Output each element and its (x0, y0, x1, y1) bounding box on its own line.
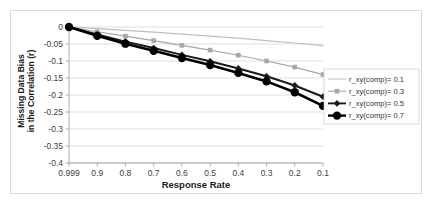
y-tick-label: -0.2 (48, 90, 63, 100)
data-point-marker-s1 (151, 38, 156, 43)
data-point-marker-s1 (335, 89, 340, 94)
data-series-group (65, 23, 327, 110)
x-tick-label: 0.8 (120, 168, 132, 178)
data-point-marker-s3 (121, 39, 129, 47)
x-tick-label: 0.6 (176, 168, 188, 178)
legend-label: r_xy(comp)= 0.5 (349, 99, 404, 108)
x-tick-label: 0.5 (204, 168, 216, 178)
data-point-marker-s3 (291, 88, 299, 96)
x-tick-label: 0.7 (148, 168, 160, 178)
y-tick-label: -0.05 (44, 39, 64, 49)
data-point-marker-s1 (264, 59, 269, 64)
data-point-marker-s3 (262, 77, 270, 85)
data-point-marker-s1 (123, 34, 128, 39)
data-point-marker-s3 (234, 69, 242, 77)
y-axis-title-line2: in the Correlation (r) (26, 50, 36, 133)
data-point-marker-s1 (236, 53, 241, 58)
chart-container: 0-0.05-0.1-0.15-0.2-0.25-0.3-0.35-0.4 0.… (10, 10, 422, 194)
y-tick-label: 0 (58, 22, 63, 32)
x-tick-label: 0.3 (261, 168, 273, 178)
chart-legend: r_xy(comp)= 0.1r_xy(comp)= 0.3r_xy(comp)… (324, 69, 419, 124)
legend-label: r_xy(comp)= 0.3 (349, 87, 404, 96)
series-polyline (69, 27, 323, 106)
data-point-marker-s2 (291, 82, 298, 89)
x-tick-label: 0.999 (58, 168, 80, 178)
y-tick-label: -0.4 (48, 158, 63, 168)
x-tick-label: 0.2 (289, 168, 301, 178)
series-polyline (69, 27, 323, 75)
y-tick-label: -0.1 (48, 56, 63, 66)
y-axis-title-line1: Missing Data Bias (16, 54, 26, 128)
data-point-marker-s3 (206, 61, 214, 69)
data-point-marker-s3 (333, 111, 341, 119)
y-tick-label: -0.35 (44, 141, 64, 151)
y-tick-label: -0.3 (48, 124, 63, 134)
x-tick-label: 0.1 (317, 168, 329, 178)
data-point-marker-s3 (65, 23, 73, 31)
data-point-marker-s3 (178, 54, 186, 62)
data-point-marker-s3 (93, 32, 101, 40)
data-point-marker-s1 (208, 48, 213, 53)
chart-plot-area: 0-0.05-0.1-0.15-0.2-0.25-0.3-0.35-0.4 0.… (11, 11, 423, 195)
series-line-1 (67, 25, 326, 77)
y-tick-labels: 0-0.05-0.1-0.15-0.2-0.25-0.3-0.35-0.4 (44, 22, 64, 168)
y-tick-label: -0.25 (44, 107, 64, 117)
legend-label: r_xy(comp)= 0.1 (349, 75, 404, 84)
x-tick-labels: 0.9990.90.80.70.60.50.40.30.20.1 (58, 168, 329, 178)
legend-label: r_xy(comp)= 0.7 (349, 111, 404, 120)
data-point-marker-s1 (292, 65, 297, 70)
data-point-marker-s1 (180, 43, 185, 48)
x-tick-label: 0.9 (91, 168, 103, 178)
x-tick-label: 0.4 (232, 168, 244, 178)
data-point-marker-s3 (149, 47, 157, 55)
y-tick-label: -0.15 (44, 73, 64, 83)
x-axis-title: Response Rate (162, 179, 231, 190)
